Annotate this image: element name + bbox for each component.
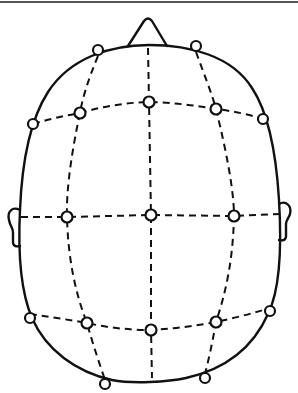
electrode-back-left xyxy=(82,318,93,329)
electrode-middle-left xyxy=(62,212,73,223)
electrode-front-left xyxy=(75,108,86,119)
nose-icon xyxy=(128,19,167,47)
electrode-front-center xyxy=(144,97,155,108)
electrode-front-right xyxy=(211,104,222,115)
edge-electrode xyxy=(258,114,268,124)
edge-electrode xyxy=(191,41,201,51)
eeg-electrode-diagram xyxy=(0,0,298,393)
edge-electrode xyxy=(25,313,35,323)
electrode-middle-right xyxy=(229,211,240,222)
electrode-back-right xyxy=(211,317,222,328)
edge-electrode xyxy=(200,373,210,383)
electrode-middle-center xyxy=(146,210,157,221)
edge-electrode xyxy=(93,45,103,55)
edge-electrode xyxy=(265,306,275,316)
edge-electrode xyxy=(28,119,38,129)
electrode-back-center xyxy=(146,325,157,336)
edge-electrode xyxy=(100,379,110,389)
